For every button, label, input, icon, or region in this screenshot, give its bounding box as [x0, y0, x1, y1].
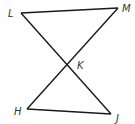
label-l: L — [8, 8, 14, 19]
geometry-diagram: L M K H J — [0, 0, 135, 124]
label-j: J — [114, 113, 119, 124]
segment-lm — [21, 8, 118, 13]
label-k: K — [77, 60, 85, 71]
segment-mh — [27, 8, 118, 109]
label-m: M — [122, 3, 131, 14]
segment-lj — [21, 13, 111, 114]
segment-hj — [27, 109, 111, 114]
label-h: H — [14, 106, 22, 117]
